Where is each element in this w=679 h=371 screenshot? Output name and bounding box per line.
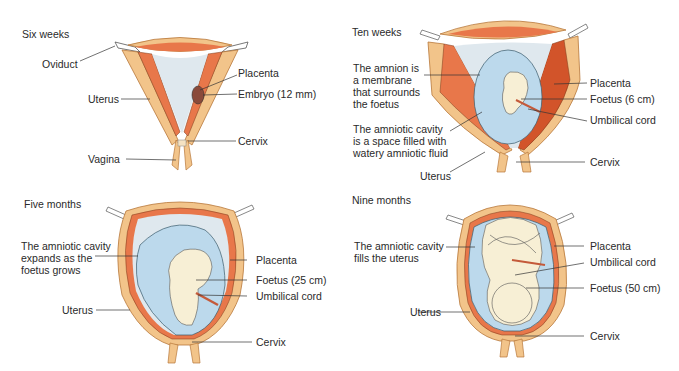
label-amniotic-cavity: The amniotic cavity expands as the foetu… — [21, 240, 111, 276]
label-oviduct: Oviduct — [42, 58, 78, 70]
label-cervix: Cervix — [590, 330, 620, 342]
label-amniotic-cavity: The amniotic cavity is a space filled wi… — [353, 123, 448, 159]
label-uterus: Uterus — [420, 170, 451, 182]
panel-nine-months: Nine months The amniotic cavity fills th… — [340, 185, 679, 371]
label-umbilical-cord: Umbilical cord — [590, 114, 656, 126]
panel-five-months: Five months The amniotic cavity expands … — [0, 185, 340, 371]
panel-title: Six weeks — [22, 28, 69, 40]
label-amniotic-cavity: The amniotic cavity fills the uterus — [354, 240, 444, 264]
label-foetus: Foetus (25 cm) — [256, 274, 327, 286]
label-umbilical-cord: Umbilical cord — [256, 290, 322, 302]
label-vagina: Vagina — [88, 153, 120, 165]
label-amnion: The amnion is a membrane that surrounds … — [353, 62, 420, 110]
label-foetus: Foetus (50 cm) — [590, 282, 661, 294]
label-placenta: Placenta — [238, 67, 279, 79]
label-cervix: Cervix — [590, 156, 620, 168]
label-placenta: Placenta — [590, 77, 631, 89]
label-placenta: Placenta — [256, 254, 297, 266]
label-uterus: Uterus — [410, 306, 441, 318]
panel-six-weeks: Six weeks Oviduct Placenta Uterus Embryo… — [0, 0, 340, 185]
label-embryo: Embryo (12 mm) — [238, 88, 316, 100]
label-uterus: Uterus — [88, 93, 119, 105]
label-foetus: Foetus (6 cm) — [590, 93, 655, 105]
label-umbilical-cord: Umbilical cord — [590, 256, 656, 268]
label-placenta: Placenta — [590, 240, 631, 252]
panel-title: Five months — [24, 198, 81, 210]
panel-title: Ten weeks — [352, 26, 402, 38]
label-uterus: Uterus — [62, 304, 93, 316]
label-cervix: Cervix — [238, 135, 268, 147]
panel-title: Nine months — [352, 194, 411, 206]
nine-months-uterus-illustration — [340, 185, 679, 371]
label-cervix: Cervix — [256, 336, 286, 348]
panel-ten-weeks: Ten weeks The amnion is a membrane that … — [340, 0, 679, 185]
